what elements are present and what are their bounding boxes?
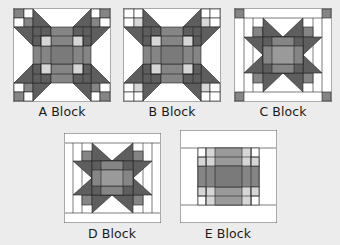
block-c-diagram [234, 8, 332, 102]
block-a-label: A Block [12, 104, 112, 119]
block-b-label: B Block [122, 104, 222, 119]
block-e-label: E Block [178, 226, 278, 241]
quilt-block-e [180, 130, 277, 223]
block-b-diagram [123, 8, 221, 102]
quilt-block-a [13, 8, 111, 102]
block-d-label: D Block [62, 226, 162, 241]
quilt-block-d [64, 133, 161, 223]
block-d-diagram [64, 133, 161, 223]
block-e-diagram [180, 130, 277, 223]
quilt-block-b [123, 8, 221, 102]
block-a-diagram [13, 8, 111, 102]
block-c-label: C Block [233, 104, 333, 119]
quilt-block-c [234, 8, 332, 102]
